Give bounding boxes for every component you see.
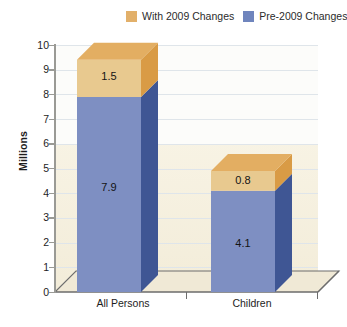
x-axis-tick-end — [317, 292, 318, 299]
x-axis-label-all-persons: All Persons — [59, 297, 187, 309]
data-label-children-with-2009: 0.8 — [211, 174, 275, 186]
x-axis-label-children: Children — [188, 297, 316, 309]
bar-children-pre2009-side[interactable] — [275, 174, 292, 292]
data-label-children-pre-2009: 4.1 — [211, 237, 275, 249]
